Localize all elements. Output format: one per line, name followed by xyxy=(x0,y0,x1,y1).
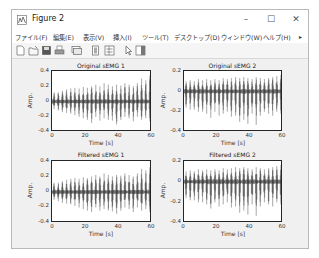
axes-title: Filtered sEMG 1 xyxy=(51,151,151,158)
xtick: 0 xyxy=(45,132,59,138)
axes-title: Filtered sEMG 2 xyxy=(183,151,282,158)
print-icon[interactable] xyxy=(54,45,65,56)
menu-edit[interactable]: 編集(E) xyxy=(53,33,74,42)
x-axis-label: Time [s] xyxy=(213,230,253,237)
y-axis-label: Amp. xyxy=(159,93,166,109)
xtick: 20 xyxy=(78,132,92,138)
ytick: 0.4 xyxy=(29,157,49,163)
xtick: 40 xyxy=(111,132,125,138)
edit-plot-arrow-icon[interactable] xyxy=(123,45,134,56)
save-icon[interactable] xyxy=(41,45,52,56)
menu-insert[interactable]: 挿入(I) xyxy=(113,33,132,42)
xtick: 60 xyxy=(275,223,289,229)
plot-area[interactable] xyxy=(183,160,282,222)
x-axis-label: Time [s] xyxy=(81,230,121,237)
maximize-button[interactable]: ☐ xyxy=(262,12,280,26)
signal-trace xyxy=(52,161,151,222)
plot-area[interactable] xyxy=(51,160,151,222)
x-axis-label: Time [s] xyxy=(213,139,253,146)
signal-trace xyxy=(52,71,151,131)
ytick: -0.2 xyxy=(29,202,49,208)
minimize-button[interactable]: – xyxy=(237,12,255,26)
menu-view[interactable]: 表示(V) xyxy=(83,33,104,42)
open-file-icon[interactable] xyxy=(28,45,39,56)
window-title: Figure 2 xyxy=(32,14,64,23)
matlab-figure-icon xyxy=(17,15,27,25)
figure-canvas: Original sEMG 1 0.4 0.2 0 -0.2 -0.4 Amp.… xyxy=(12,59,308,248)
ytick: -0.2 xyxy=(29,112,49,118)
insert-colorbar-icon[interactable] xyxy=(90,45,101,56)
x-axis-label: Time [s] xyxy=(81,139,121,146)
menu-bar: ファイル(F) 編集(E) 表示(V) 挿入(I) ツール(T) デスクトップ(… xyxy=(12,30,308,43)
y-axis-label: Amp. xyxy=(159,183,166,199)
close-button[interactable]: ✕ xyxy=(287,12,305,26)
menu-window[interactable]: ウィンドウ(W) xyxy=(221,33,262,42)
menu-help[interactable]: ヘルプ(H) xyxy=(263,33,291,42)
axes-original-semg-2[interactable]: Original sEMG 2 0.2 0 -0.2 -0.4 Amp. 0 2… xyxy=(161,59,310,153)
axes-title: Original sEMG 1 xyxy=(51,62,151,69)
title-bar[interactable]: Figure 2 – ☐ ✕ xyxy=(12,10,308,30)
menu-overflow-icon[interactable]: ▸ xyxy=(299,33,302,40)
signal-trace xyxy=(184,71,282,131)
link-plot-icon[interactable] xyxy=(71,45,82,56)
y-axis-label: Amp. xyxy=(26,93,33,109)
menu-file[interactable]: ファイル(F) xyxy=(15,33,48,42)
axes-original-semg-1[interactable]: Original sEMG 1 0.4 0.2 0 -0.2 -0.4 Amp.… xyxy=(12,59,161,153)
xtick: 60 xyxy=(275,132,289,138)
xtick: 0 xyxy=(176,223,190,229)
figure-window: Figure 2 – ☐ ✕ ファイル(F) 編集(E) 表示(V) 挿入(I)… xyxy=(11,9,309,249)
y-axis-label: Amp. xyxy=(26,183,33,199)
plot-area[interactable] xyxy=(51,70,151,131)
xtick: 20 xyxy=(78,223,92,229)
menu-desktop[interactable]: デスクトップ(D) xyxy=(174,33,220,42)
menu-tools[interactable]: ツール(T) xyxy=(142,33,169,42)
ytick: 0.2 xyxy=(161,157,181,163)
ytick: 0.2 xyxy=(29,82,49,88)
insert-legend-icon[interactable] xyxy=(104,45,115,56)
toolbar xyxy=(12,43,308,59)
xtick: 0 xyxy=(45,223,59,229)
xtick: 40 xyxy=(111,223,125,229)
axes-title: Original sEMG 2 xyxy=(183,62,282,69)
property-inspector-icon[interactable] xyxy=(135,45,146,56)
signal-trace xyxy=(184,161,282,222)
xtick: 40 xyxy=(242,223,256,229)
ytick: 0.2 xyxy=(161,67,181,73)
ytick: 0.2 xyxy=(29,172,49,178)
xtick: 20 xyxy=(209,132,223,138)
xtick: 60 xyxy=(144,223,158,229)
axes-filtered-semg-1[interactable]: Filtered sEMG 1 0.4 0.2 0 -0.2 -0.4 Amp.… xyxy=(12,151,161,248)
axes-filtered-semg-2[interactable]: Filtered sEMG 2 0.2 0 -0.2 -0.4 Amp. 0 2… xyxy=(161,151,310,248)
xtick: 40 xyxy=(242,132,256,138)
ytick: -0.2 xyxy=(161,198,181,204)
new-figure-icon[interactable] xyxy=(15,45,26,56)
plot-area[interactable] xyxy=(183,70,282,131)
ytick: 0.4 xyxy=(29,67,49,73)
xtick: 60 xyxy=(144,132,158,138)
xtick: 20 xyxy=(209,223,223,229)
xtick: 0 xyxy=(176,132,190,138)
